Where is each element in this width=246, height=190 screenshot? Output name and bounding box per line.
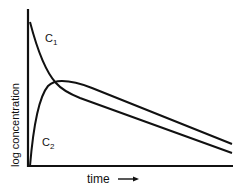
curve-c1 (30, 22, 232, 153)
y-axis-label: log concentration (9, 83, 21, 167)
label-c1: C1 (45, 32, 58, 47)
chart-svg: C1 C2 log concentration time (0, 0, 246, 190)
x-axis-label: time (87, 172, 110, 186)
pharmacokinetic-chart: C1 C2 log concentration time (0, 0, 246, 190)
curve-c2 (30, 81, 232, 166)
arrow-right-icon (118, 177, 139, 182)
label-c2: C2 (42, 136, 55, 151)
